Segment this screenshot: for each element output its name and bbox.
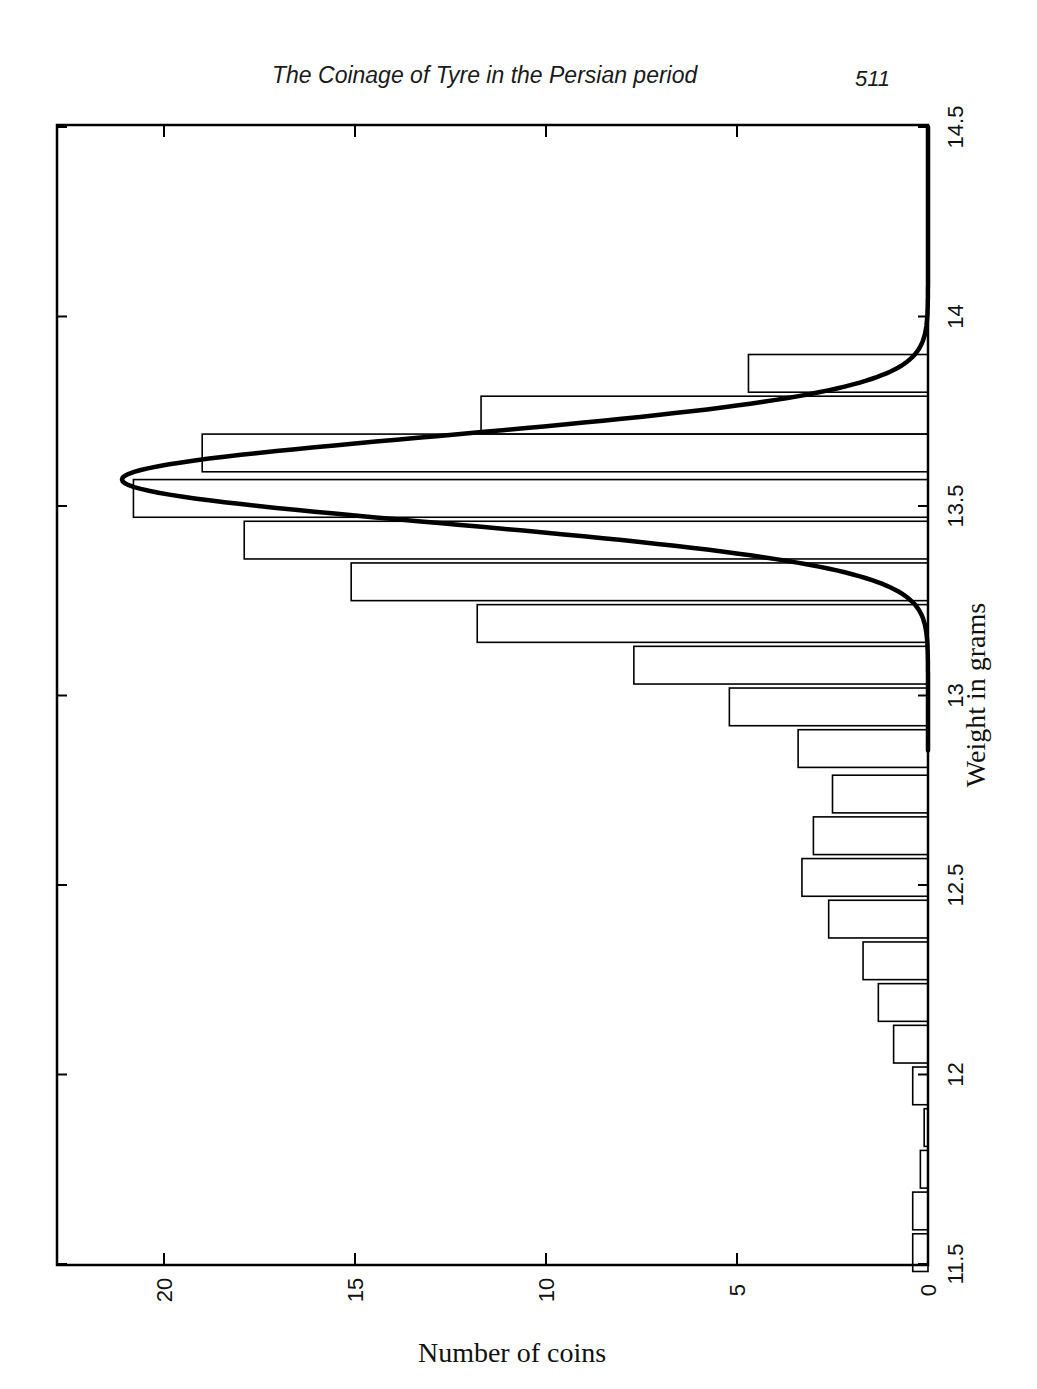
histogram-bar (913, 1067, 928, 1105)
histogram-bar (813, 817, 928, 855)
histogram-bar (802, 859, 928, 897)
x-tick-label: 12 (943, 1062, 968, 1086)
histogram-bar (798, 730, 928, 768)
histogram-bar (913, 1192, 928, 1230)
y-tick-label: 20 (152, 1278, 177, 1302)
x-tick-label: 12.5 (943, 864, 968, 907)
histogram-bar (863, 942, 928, 980)
y-tick-label: 15 (343, 1278, 368, 1302)
x-axis-title: Weight in grams (960, 603, 991, 787)
x-tick-label: 11.5 (943, 1243, 968, 1284)
histogram-bar (829, 900, 928, 938)
x-tick-label: 14.5 (943, 106, 968, 149)
y-tick-label: 5 (725, 1284, 750, 1296)
histogram-chart: 11.51212.51313.51414.505101520 Weight in… (0, 0, 1037, 1389)
histogram-bar (894, 1025, 928, 1063)
y-axis-title: Number of coins (418, 1337, 606, 1368)
y-tick-label: 0 (916, 1284, 941, 1296)
y-tick-label: 10 (534, 1278, 559, 1302)
histogram-bar (202, 434, 928, 472)
histogram-bars (133, 355, 928, 1272)
histogram-bar (833, 775, 929, 813)
x-tick-label: 14 (943, 304, 968, 328)
histogram-bar (351, 563, 928, 601)
histogram-bar (878, 984, 928, 1022)
histogram-bar (729, 688, 928, 726)
histogram-bar (477, 605, 928, 643)
x-tick-label: 13.5 (943, 485, 968, 528)
histogram-bar (244, 521, 928, 559)
histogram-bar (634, 646, 928, 684)
histogram-bar (133, 480, 928, 518)
